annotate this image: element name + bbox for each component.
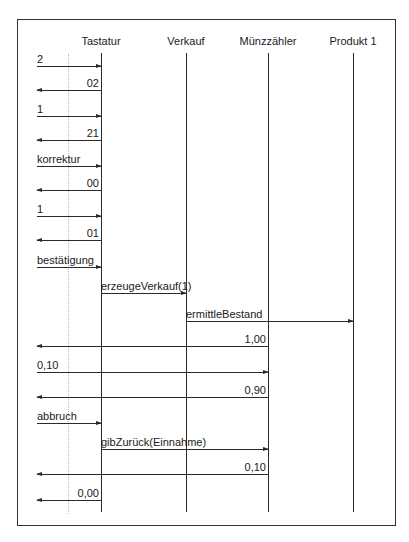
arrow-left-icon — [36, 395, 42, 399]
message-arrow: korrektur — [37, 166, 101, 167]
arrow-right-icon — [263, 447, 269, 451]
arrow-right-icon — [96, 164, 102, 168]
message-arrow: abbruch — [37, 423, 101, 424]
arrow-right-icon — [96, 114, 102, 118]
message-label: 21 — [87, 127, 99, 139]
arrow-right-icon — [96, 64, 102, 68]
arrow-left-icon — [36, 138, 42, 142]
lifeline — [353, 53, 354, 512]
message-label: ermittleBestand — [186, 308, 262, 320]
message-label: 0,10 — [245, 461, 266, 473]
message-arrow: 21 — [37, 140, 101, 141]
message-arrow: 1 — [37, 216, 101, 217]
message-label: 01 — [87, 227, 99, 239]
message-arrow: 2 — [37, 66, 101, 67]
message-label: 1 — [37, 103, 43, 115]
message-arrow: 1 — [37, 116, 101, 117]
message-label: 1,00 — [245, 333, 266, 345]
arrow-left-icon — [36, 238, 42, 242]
arrow-left-icon — [36, 88, 42, 92]
message-label: erzeugeVerkauf(1) — [101, 280, 192, 292]
message-arrow: 01 — [37, 240, 101, 241]
lifeline-label: Münzzähler — [240, 35, 297, 47]
message-label: korrektur — [37, 153, 80, 165]
lifeline-label: Produkt 1 — [329, 35, 376, 47]
message-arrow: 00 — [37, 190, 101, 191]
message-arrow: 1,00 — [37, 346, 268, 347]
message-arrow: 0,10 — [37, 372, 268, 373]
arrow-left-icon — [36, 472, 42, 476]
arrow-left-icon — [36, 344, 42, 348]
arrow-right-icon — [96, 214, 102, 218]
message-label: bestätigung — [37, 254, 94, 266]
message-label: 02 — [87, 77, 99, 89]
message-arrow: 0,10 — [37, 474, 268, 475]
message-label: 0,10 — [37, 359, 58, 371]
actor-dotted-line — [68, 54, 69, 514]
arrow-right-icon — [348, 319, 354, 323]
message-arrow: ermittleBestand — [186, 321, 353, 322]
lifeline — [268, 53, 269, 512]
message-label: gibZurück(Einnahme) — [101, 436, 206, 448]
message-label: 1 — [37, 203, 43, 215]
message-arrow: 0,00 — [37, 500, 101, 501]
arrow-right-icon — [96, 265, 102, 269]
message-label: 0,90 — [245, 384, 266, 396]
lifeline-label: Tastatur — [81, 35, 120, 47]
message-label: 0,00 — [78, 487, 99, 499]
message-arrow: erzeugeVerkauf(1) — [101, 293, 186, 294]
message-label: abbruch — [37, 410, 77, 422]
arrow-right-icon — [263, 370, 269, 374]
message-label: 2 — [37, 53, 43, 65]
arrow-right-icon — [96, 421, 102, 425]
message-arrow: 02 — [37, 90, 101, 91]
message-label: 00 — [87, 177, 99, 189]
arrow-left-icon — [36, 498, 42, 502]
message-arrow: bestätigung — [37, 267, 101, 268]
arrow-left-icon — [36, 188, 42, 192]
lifeline-label: Verkauf — [167, 35, 204, 47]
message-arrow: gibZurück(Einnahme) — [101, 449, 268, 450]
message-arrow: 0,90 — [37, 397, 268, 398]
